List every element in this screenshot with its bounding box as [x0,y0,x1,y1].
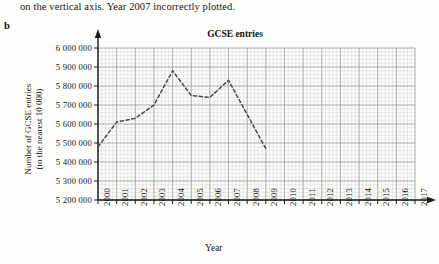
x-axis-tick-label: 2008 [251,188,261,206]
y-axis-title-line1: Number of GCSE entries [23,49,34,209]
x-axis-tick-label: 2002 [139,188,149,206]
x-axis-tick-label: 2005 [195,188,205,206]
x-axis-tick-label: 2016 [400,188,410,206]
x-axis-tick-label: 2013 [344,188,354,206]
x-axis-tick-label: 2011 [307,188,317,206]
y-axis-title-line2: (to the nearest 10 000) [34,49,45,209]
x-axis-tick-label: 2004 [176,188,186,206]
data-series-line [98,71,266,149]
x-axis-tick-label: 2014 [363,188,373,206]
page-root: on the vertical axis. Year 2007 incorrec… [0,0,439,264]
x-axis-tick-label: 2009 [269,188,279,206]
x-axis-tick-label: 2007 [232,188,242,206]
chart-svg [0,0,439,264]
x-axis-tick-label: 2012 [325,188,335,206]
x-axis-tick-label: 2015 [381,188,391,206]
x-axis-tick-label: 2000 [102,188,112,206]
x-axis-tick-label: 2001 [120,188,130,206]
chart-plot-area: 6 000 0005 900 0005 800 0005 700 0005 60… [0,0,439,264]
x-axis-tick-label: 2010 [288,188,298,206]
x-axis-tick-label: 2017 [419,188,429,206]
x-axis-tick-label: 2003 [157,188,167,206]
x-axis-title: Year [205,243,223,253]
y-axis-title: Number of GCSE entries (to the nearest 1… [23,49,45,209]
x-axis-tick-label: 2006 [213,188,223,206]
